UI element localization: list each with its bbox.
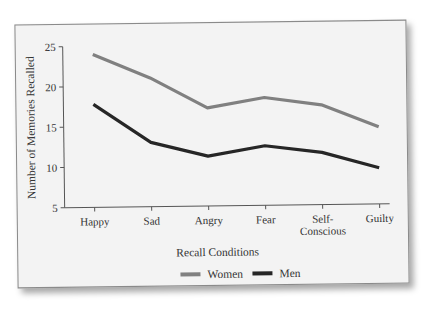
x-tick-label: Angry (195, 214, 224, 226)
y-tick-label: 10 (46, 162, 58, 174)
y-tick-label: 25 (45, 41, 57, 53)
chart-card: 510152025HappySadAngryFearSelf-Conscious… (14, 20, 409, 289)
series-line-women (93, 51, 379, 130)
y-tick-label: 15 (46, 121, 58, 133)
x-tick-label: Sad (143, 215, 160, 227)
x-tick-label: Fear (256, 213, 276, 225)
legend-label-women: Women (207, 268, 243, 280)
legend-label-men: Men (279, 267, 300, 279)
x-tick-label: Guilty (366, 212, 395, 224)
x-axis-title: Recall Conditions (176, 245, 259, 258)
y-tick-label: 20 (45, 81, 57, 93)
x-tick-label: Happy (80, 215, 110, 227)
x-axis (65, 204, 390, 208)
x-tick-label: Self- (312, 213, 334, 225)
x-tick-label: Conscious (300, 224, 346, 237)
line-chart: 510152025HappySadAngryFearSelf-Conscious… (15, 21, 408, 288)
y-axis-title: Number of Memories Recalled (24, 56, 38, 199)
y-tick-label: 5 (52, 202, 58, 214)
